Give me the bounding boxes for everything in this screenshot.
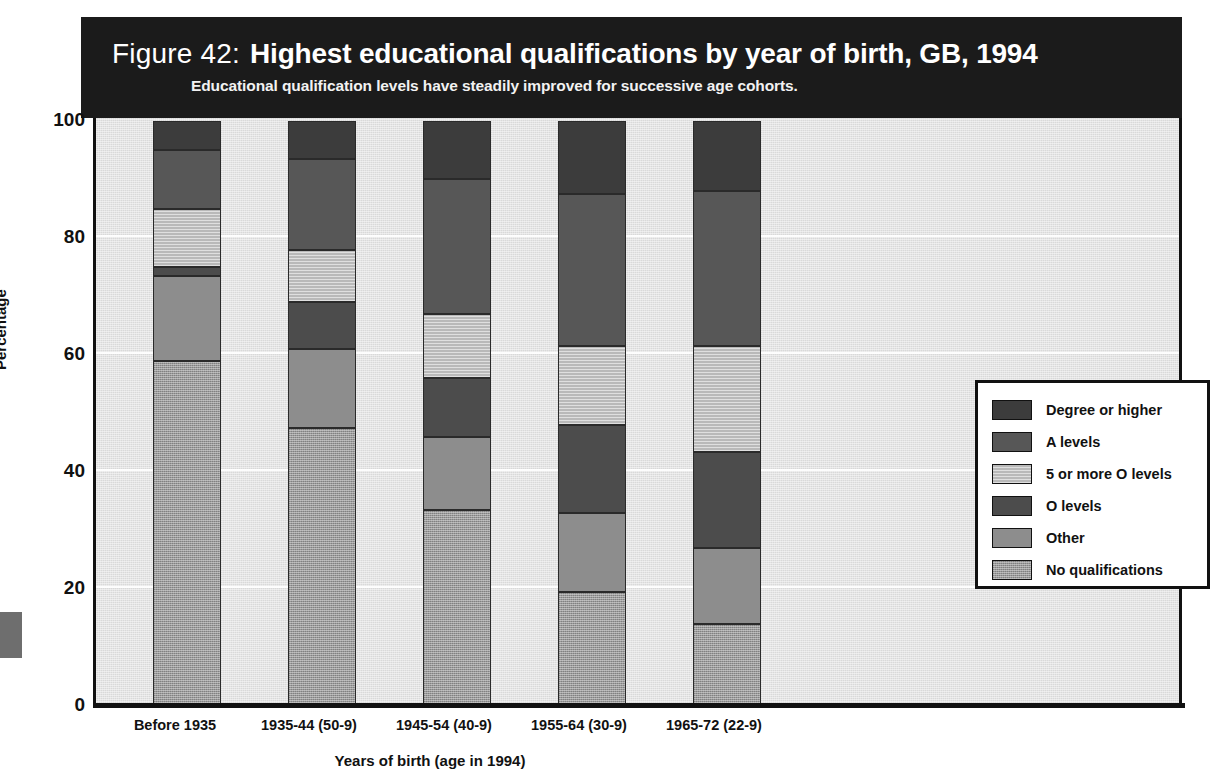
segment-5-or-more-o-levels[interactable] xyxy=(288,250,356,302)
segment-no-qualifications[interactable] xyxy=(153,361,221,706)
segment-5-or-more-o-levels[interactable] xyxy=(693,346,761,452)
segment-o-levels[interactable] xyxy=(558,425,626,513)
y-axis-tick-60: 60 xyxy=(15,343,85,365)
segment-5-or-more-o-levels[interactable] xyxy=(423,314,491,378)
page-title: Highest educational qualifications by ye… xyxy=(250,38,1038,69)
plot-area: Degree or higher A levels 5 or more O le… xyxy=(93,118,1182,706)
segment-o-levels[interactable] xyxy=(288,302,356,349)
segment-a-levels[interactable] xyxy=(693,191,761,346)
segment-o-levels[interactable] xyxy=(153,267,221,276)
segment-5-or-more-o-levels[interactable] xyxy=(558,346,626,425)
bar-1965-72[interactable] xyxy=(693,121,761,706)
legend-label: No qualifications xyxy=(1046,562,1163,578)
segment-o-levels[interactable] xyxy=(693,452,761,548)
segment-degree-or-higher[interactable] xyxy=(693,121,761,191)
bar-1955-64[interactable] xyxy=(558,121,626,706)
y-axis-tick-100: 100 xyxy=(15,109,85,131)
legend-swatch-icon xyxy=(992,464,1032,484)
segment-a-levels[interactable] xyxy=(288,159,356,250)
scan-edge-artifact xyxy=(0,612,22,658)
segment-o-levels[interactable] xyxy=(423,378,491,437)
segment-other[interactable] xyxy=(558,513,626,592)
legend-swatch-icon xyxy=(992,560,1032,580)
y-axis-label: Percentage xyxy=(0,289,9,370)
legend-swatch-icon xyxy=(992,528,1032,548)
segment-no-qualifications[interactable] xyxy=(423,510,491,706)
title-line: Figure 42:Highest educational qualificat… xyxy=(112,38,1038,70)
segment-other[interactable] xyxy=(423,437,491,510)
segment-no-qualifications[interactable] xyxy=(558,592,626,706)
x-axis-line xyxy=(93,703,1185,708)
figure-subtitle: Educational qualification levels have st… xyxy=(191,77,798,95)
gridline-80 xyxy=(96,235,1179,237)
legend-label: Other xyxy=(1046,530,1085,546)
segment-degree-or-higher[interactable] xyxy=(153,121,221,150)
y-axis-tick-0: 0 xyxy=(15,694,85,716)
figure-title-banner: Figure 42:Highest educational qualificat… xyxy=(81,17,1182,118)
figure-number: Figure 42: xyxy=(112,38,240,69)
bar-1935-44[interactable] xyxy=(288,121,356,706)
segment-degree-or-higher[interactable] xyxy=(423,121,491,179)
bar-1945-54[interactable] xyxy=(423,121,491,706)
legend-item-other[interactable]: Other xyxy=(992,522,1207,554)
x-axis-label: Years of birth (age in 1994) xyxy=(0,752,860,769)
x-axis-tick-1965-72: 1965-72 (22-9) xyxy=(631,717,797,733)
segment-degree-or-higher[interactable] xyxy=(288,121,356,159)
legend-label: A levels xyxy=(1046,434,1100,450)
segment-a-levels[interactable] xyxy=(558,194,626,346)
segment-no-qualifications[interactable] xyxy=(288,428,356,706)
segment-other[interactable] xyxy=(693,548,761,624)
segment-no-qualifications[interactable] xyxy=(693,624,761,706)
chart-legend: Degree or higher A levels 5 or more O le… xyxy=(975,380,1210,589)
y-axis-tick-20: 20 xyxy=(15,577,85,599)
segment-other[interactable] xyxy=(153,276,221,361)
y-axis-tick-40: 40 xyxy=(15,460,85,482)
legend-item-o-levels[interactable]: O levels xyxy=(992,490,1207,522)
legend-swatch-icon xyxy=(992,496,1032,516)
bar-before-1935[interactable] xyxy=(153,121,221,706)
segment-a-levels[interactable] xyxy=(423,179,491,314)
segment-a-levels[interactable] xyxy=(153,150,221,209)
legend-item-degree-or-higher[interactable]: Degree or higher xyxy=(992,394,1207,426)
segment-other[interactable] xyxy=(288,349,356,428)
legend-label: Degree or higher xyxy=(1046,402,1162,418)
legend-item-5-or-more-o-levels[interactable]: 5 or more O levels xyxy=(992,458,1207,490)
legend-item-a-levels[interactable]: A levels xyxy=(992,426,1207,458)
legend-label: O levels xyxy=(1046,498,1102,514)
legend-label: 5 or more O levels xyxy=(1046,466,1172,482)
legend-swatch-icon xyxy=(992,432,1032,452)
legend-item-no-qualifications[interactable]: No qualifications xyxy=(992,554,1207,586)
gridline-60 xyxy=(96,352,1179,354)
segment-5-or-more-o-levels[interactable] xyxy=(153,209,221,267)
legend-swatch-icon xyxy=(992,400,1032,420)
y-axis-tick-80: 80 xyxy=(15,226,85,248)
segment-degree-or-higher[interactable] xyxy=(558,121,626,194)
